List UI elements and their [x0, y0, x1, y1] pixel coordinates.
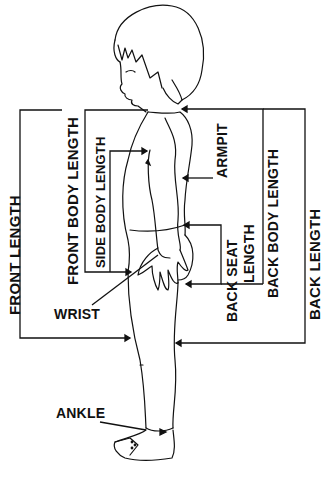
- label-ankle: ANKLE: [56, 405, 105, 421]
- label-back-length: BACK LENGTH: [306, 209, 323, 320]
- label-back-seat-length-line2: LENGTH: [241, 224, 257, 283]
- label-front-length: FRONT LENGTH: [6, 195, 23, 315]
- label-back-body-length: BACK BODY LENGTH: [265, 149, 281, 298]
- label-back-seat-length-line1: BACK SEAT: [224, 240, 240, 322]
- label-wrist: WRIST: [54, 306, 100, 322]
- label-front-body-length: FRONT BODY LENGTH: [64, 117, 81, 285]
- label-side-body-length: SIDE BODY LENGTH: [93, 136, 108, 268]
- label-armpit: ARMPIT: [214, 123, 230, 178]
